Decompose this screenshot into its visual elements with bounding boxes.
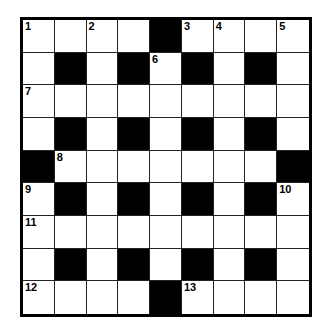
grid-cell[interactable] xyxy=(118,281,150,314)
black-square xyxy=(182,53,214,86)
clue-number: 2 xyxy=(89,21,95,32)
grid-cell[interactable]: 8 xyxy=(55,151,87,184)
black-square xyxy=(245,118,277,151)
grid-cell[interactable] xyxy=(150,151,182,184)
grid-cell[interactable] xyxy=(87,216,119,249)
grid-cell[interactable] xyxy=(277,118,309,151)
grid-cell[interactable] xyxy=(150,118,182,151)
grid-cell[interactable] xyxy=(245,151,277,184)
clue-number: 4 xyxy=(216,21,222,32)
black-square xyxy=(150,20,182,53)
grid-cell[interactable]: 11 xyxy=(23,216,55,249)
clue-number: 11 xyxy=(25,217,37,228)
grid-cell[interactable] xyxy=(23,249,55,282)
grid-cell[interactable] xyxy=(87,151,119,184)
black-square xyxy=(55,249,87,282)
grid-cell[interactable] xyxy=(277,85,309,118)
grid-cell[interactable] xyxy=(245,85,277,118)
grid-cell[interactable] xyxy=(118,216,150,249)
grid-cell[interactable] xyxy=(277,216,309,249)
clue-number: 1 xyxy=(25,21,31,32)
grid-cell[interactable] xyxy=(55,216,87,249)
clue-number: 10 xyxy=(279,184,291,195)
grid-cell[interactable] xyxy=(150,249,182,282)
black-square xyxy=(245,183,277,216)
grid-cell[interactable] xyxy=(87,249,119,282)
black-square xyxy=(118,249,150,282)
grid-cell[interactable] xyxy=(23,118,55,151)
grid-cell[interactable] xyxy=(87,85,119,118)
grid-cell[interactable]: 2 xyxy=(87,20,119,53)
crossword-grid: 12345678910111213 xyxy=(20,17,312,317)
black-square xyxy=(245,53,277,86)
grid-cell[interactable] xyxy=(277,249,309,282)
grid-cell[interactable] xyxy=(245,20,277,53)
grid-cell[interactable] xyxy=(150,216,182,249)
black-square xyxy=(182,249,214,282)
grid-cell[interactable]: 9 xyxy=(23,183,55,216)
grid-cell[interactable] xyxy=(245,281,277,314)
grid-cell[interactable] xyxy=(23,53,55,86)
grid-cell[interactable] xyxy=(55,20,87,53)
black-square xyxy=(245,249,277,282)
grid-cell[interactable] xyxy=(182,85,214,118)
grid-cell[interactable] xyxy=(214,183,246,216)
grid-cell[interactable] xyxy=(55,281,87,314)
grid-cell[interactable] xyxy=(277,53,309,86)
grid-cell[interactable]: 3 xyxy=(182,20,214,53)
grid-cell[interactable] xyxy=(214,151,246,184)
grid-cell[interactable] xyxy=(182,151,214,184)
grid-cell[interactable] xyxy=(55,85,87,118)
grid-cell[interactable] xyxy=(214,281,246,314)
grid-cell[interactable] xyxy=(118,85,150,118)
grid-cell[interactable] xyxy=(87,53,119,86)
grid-cell[interactable] xyxy=(87,183,119,216)
grid-cell[interactable] xyxy=(182,216,214,249)
grid-cell[interactable]: 7 xyxy=(23,85,55,118)
clue-number: 13 xyxy=(184,282,196,293)
grid-cell[interactable] xyxy=(245,216,277,249)
grid-cell[interactable] xyxy=(87,118,119,151)
grid-cell[interactable]: 4 xyxy=(214,20,246,53)
grid-cell[interactable] xyxy=(214,85,246,118)
grid-cell[interactable] xyxy=(150,183,182,216)
grid-cell[interactable] xyxy=(214,118,246,151)
clue-number: 7 xyxy=(25,86,31,97)
grid-cell[interactable] xyxy=(118,20,150,53)
grid-cell[interactable]: 1 xyxy=(23,20,55,53)
grid-cell[interactable]: 13 xyxy=(182,281,214,314)
clue-number: 6 xyxy=(152,54,158,65)
black-square xyxy=(55,118,87,151)
grid-cell[interactable] xyxy=(214,249,246,282)
clue-number: 12 xyxy=(25,282,37,293)
black-square xyxy=(277,151,309,184)
black-square xyxy=(55,53,87,86)
grid-cell[interactable]: 5 xyxy=(277,20,309,53)
grid-cell[interactable] xyxy=(87,281,119,314)
grid-cell[interactable] xyxy=(150,85,182,118)
black-square xyxy=(118,53,150,86)
black-square xyxy=(182,183,214,216)
clue-number: 3 xyxy=(184,21,190,32)
clue-number: 9 xyxy=(25,184,31,195)
clue-number: 8 xyxy=(57,152,63,163)
clue-number: 5 xyxy=(279,21,285,32)
black-square xyxy=(118,183,150,216)
black-square xyxy=(23,151,55,184)
grid-cell[interactable] xyxy=(214,216,246,249)
grid-cell[interactable] xyxy=(118,151,150,184)
grid-cell[interactable]: 10 xyxy=(277,183,309,216)
grid-cell[interactable]: 12 xyxy=(23,281,55,314)
black-square xyxy=(118,118,150,151)
grid-cell[interactable] xyxy=(277,281,309,314)
black-square xyxy=(55,183,87,216)
black-square xyxy=(182,118,214,151)
grid-cell[interactable] xyxy=(214,53,246,86)
grid-cell[interactable]: 6 xyxy=(150,53,182,86)
black-square xyxy=(150,281,182,314)
